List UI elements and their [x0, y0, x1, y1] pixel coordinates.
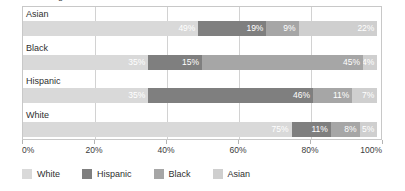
stacked-bar[interactable]: 35%46%11%7%	[23, 88, 381, 103]
legend-swatch-icon	[82, 169, 92, 179]
bar-row: White75%11%8%5%	[23, 108, 381, 142]
legend-item[interactable]: Asian	[213, 169, 251, 179]
legend-label: Hispanic	[97, 169, 132, 179]
axis-tick-mark	[238, 140, 239, 144]
bar-segment[interactable]: 19%	[198, 21, 266, 36]
row-category-label: White	[26, 109, 49, 121]
axis-tick-label: 40%	[157, 145, 174, 155]
row-category-label: Asian	[26, 8, 49, 20]
legend-label: White	[37, 169, 60, 179]
bar-segment-label: 4%	[363, 55, 377, 70]
bar-segment-label: 11%	[333, 88, 352, 103]
bar-segment-label: 75%	[271, 122, 291, 137]
stacked-bar[interactable]: 35%15%45%4%	[23, 55, 381, 70]
bar-segment-label: 9%	[283, 21, 298, 36]
bar-segment[interactable]: 46%	[148, 88, 313, 103]
legend-swatch-icon	[154, 169, 164, 179]
bar-segment[interactable]: 35%	[23, 88, 148, 103]
bar-segment-label: 7%	[362, 88, 377, 103]
legend-item[interactable]: Hispanic	[82, 169, 132, 179]
legend-swatch-icon	[213, 169, 223, 179]
bar-segment[interactable]: 49%	[23, 21, 198, 36]
bar-segment-label: 22%	[357, 21, 377, 36]
bar-segment[interactable]: 35%	[23, 55, 148, 70]
bar-segment[interactable]: 7%	[352, 88, 377, 103]
axis-tick-label: 0%	[22, 145, 34, 155]
bar-row: Asian49%19%9%22%	[23, 7, 381, 41]
bar-segment[interactable]: 8%	[331, 122, 360, 137]
legend-label: Asian	[228, 169, 251, 179]
bar-segment[interactable]: 5%	[360, 122, 378, 137]
axis-tick-mark	[382, 140, 383, 144]
bar-segment[interactable]: 45%	[202, 55, 363, 70]
bar-segment-label: 8%	[344, 122, 359, 137]
axis-tick-label: 80%	[301, 145, 318, 155]
stacked-bar-chart: Percentage Asian49%19%9%22%Black35%15%45…	[0, 0, 405, 191]
axis-tick-label: 100%	[360, 145, 382, 155]
bar-segment[interactable]: 22%	[299, 21, 378, 36]
axis-tick-mark	[310, 140, 311, 144]
bar-segment-label: 15%	[182, 55, 202, 70]
bar-segment[interactable]: 4%	[363, 55, 377, 70]
axis-tick-mark	[22, 140, 23, 144]
plot-area: Asian49%19%9%22%Black35%15%45%4%Hispanic…	[22, 6, 382, 140]
stacked-bar[interactable]: 75%11%8%5%	[23, 122, 381, 137]
chart-legend: WhiteHispanicBlackAsian	[22, 166, 272, 182]
bar-segment-label: 11%	[311, 122, 330, 137]
bar-rows: Asian49%19%9%22%Black35%15%45%4%Hispanic…	[23, 7, 381, 139]
bar-segment-label: 19%	[246, 21, 266, 36]
bar-segment-label: 49%	[178, 21, 198, 36]
x-axis: 0%20%40%60%80%100%	[22, 140, 382, 156]
chart-title: Percentage	[22, 0, 68, 2]
axis-tick-label: 20%	[85, 145, 102, 155]
axis-tick-mark	[94, 140, 95, 144]
legend-label: Black	[169, 169, 191, 179]
bar-segment[interactable]: 9%	[266, 21, 298, 36]
axis-tick-label: 60%	[229, 145, 246, 155]
bar-segment-label: 5%	[362, 122, 377, 137]
bar-segment[interactable]: 15%	[148, 55, 202, 70]
row-category-label: Hispanic	[26, 75, 61, 87]
legend-item[interactable]: White	[22, 169, 60, 179]
bar-segment[interactable]: 75%	[23, 122, 292, 137]
legend-item[interactable]: Black	[154, 169, 191, 179]
bar-row: Hispanic35%46%11%7%	[23, 74, 381, 108]
bar-row: Black35%15%45%4%	[23, 41, 381, 75]
row-category-label: Black	[26, 42, 48, 54]
bar-segment-label: 35%	[128, 55, 148, 70]
legend-swatch-icon	[22, 169, 32, 179]
bar-segment-label: 46%	[293, 88, 313, 103]
bar-segment-label: 35%	[128, 88, 148, 103]
bar-segment-label: 45%	[343, 55, 363, 70]
axis-tick-mark	[166, 140, 167, 144]
bar-segment[interactable]: 11%	[313, 88, 352, 103]
bar-segment[interactable]: 11%	[292, 122, 331, 137]
stacked-bar[interactable]: 49%19%9%22%	[23, 21, 381, 36]
